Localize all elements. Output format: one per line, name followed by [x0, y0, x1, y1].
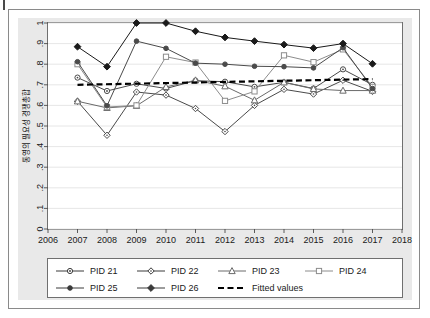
data-point-pid-24-2010	[163, 54, 168, 59]
data-point-pid-26-2012	[222, 34, 229, 41]
svg-text:.7: .7	[35, 81, 45, 89]
legend-entries: PID 21PID 22PID 23PID 24PID 25PID 26Fitt…	[56, 266, 367, 293]
data-point-pid-24-2013	[252, 89, 257, 94]
data-point-pid-25-2012	[223, 62, 228, 67]
legend-marker-diamond-filled	[148, 285, 155, 292]
data-point-pid-24-2009	[134, 103, 139, 108]
svg-text:PID 21: PID 21	[90, 266, 118, 276]
data-point-pid-22-2014	[281, 86, 287, 92]
svg-text:PID 22: PID 22	[171, 266, 199, 276]
data-series-layer	[74, 20, 376, 139]
data-point-pid-26-2009	[133, 20, 140, 27]
svg-text:2017: 2017	[362, 235, 382, 245]
svg-text:.2: .2	[35, 184, 45, 192]
svg-text:2006: 2006	[38, 235, 58, 245]
data-point-pid-26-2016	[340, 40, 347, 47]
data-point-pid-25-2008	[105, 104, 110, 109]
data-point-pid-25-2017	[370, 86, 375, 91]
data-point-pid-22-2009	[133, 89, 139, 95]
legend-marker-circle-open	[67, 268, 72, 273]
data-point-pid-24-2012	[222, 98, 227, 103]
data-point-pid-26-2010	[163, 20, 170, 27]
data-point-pid-25-2015	[311, 66, 316, 71]
svg-text:.4: .4	[35, 143, 45, 151]
data-point-pid-24-2014	[281, 53, 286, 58]
data-point-pid-21-2008	[104, 88, 109, 93]
series-pid-25	[75, 39, 375, 108]
data-point-pid-26-2014	[281, 41, 288, 48]
svg-text:0: 0	[35, 226, 45, 231]
data-point-pid-25-2014	[282, 64, 287, 69]
data-point-pid-24-2015	[311, 60, 316, 65]
line-chart: 0.1.2.3.4.5.6.7.8.91 통영의 필요성 경쟁총합 200620…	[0, 0, 430, 318]
page-root: 0.1.2.3.4.5.6.7.8.91 통영의 필요성 경쟁총합 200620…	[0, 0, 430, 318]
data-point-pid-26-2011	[192, 28, 199, 35]
svg-text:2009: 2009	[126, 235, 146, 245]
legend-item-pid-24[interactable]: PID 24	[305, 266, 367, 276]
svg-text:2014: 2014	[274, 235, 294, 245]
svg-text:통영의 필요성 경쟁총합: 통영의 필요성 경쟁총합	[21, 89, 31, 163]
legend-item-pid-23[interactable]: PID 23	[218, 266, 280, 276]
data-point-pid-25-2009	[134, 39, 139, 44]
svg-text:2010: 2010	[156, 235, 176, 245]
svg-text:PID 23: PID 23	[252, 266, 280, 276]
data-point-pid-25-2010	[164, 46, 169, 51]
legend-item-pid-21[interactable]: PID 21	[56, 266, 118, 276]
svg-text:.3: .3	[35, 163, 45, 171]
svg-text:PID 26: PID 26	[171, 283, 199, 293]
chart-svg-holder: 0.1.2.3.4.5.6.7.8.91 통영의 필요성 경쟁총합 200620…	[0, 0, 430, 318]
data-point-pid-23-2013	[251, 97, 257, 103]
data-point-pid-21-2016	[340, 67, 345, 72]
svg-text:.1: .1	[35, 205, 45, 213]
svg-text:PID 24: PID 24	[339, 266, 367, 276]
svg-text:.5: .5	[35, 122, 45, 130]
gridlines	[48, 23, 402, 229]
data-point-pid-21-2007	[75, 75, 80, 80]
data-point-pid-25-2007	[75, 59, 80, 64]
y-axis-tick-labels: 0.1.2.3.4.5.6.7.8.91	[35, 20, 45, 231]
legend-item-pid-26[interactable]: PID 26	[137, 283, 199, 293]
legend-marker-circle-filled	[68, 286, 73, 291]
svg-text:2013: 2013	[244, 235, 264, 245]
data-point-pid-25-2013	[252, 64, 257, 69]
svg-text:2007: 2007	[67, 235, 87, 245]
svg-text:2008: 2008	[97, 235, 117, 245]
svg-text:.8: .8	[35, 60, 45, 68]
svg-text:2016: 2016	[333, 235, 353, 245]
svg-text:.6: .6	[35, 102, 45, 110]
x-axis-tick-labels: 2006200720082009201020112012201320142015…	[38, 235, 412, 245]
svg-text:1: 1	[35, 20, 45, 25]
svg-text:PID 25: PID 25	[90, 283, 118, 293]
svg-text:2018: 2018	[392, 235, 412, 245]
svg-text:2011: 2011	[186, 235, 205, 245]
legend-item-pid-22[interactable]: PID 22	[137, 266, 199, 276]
svg-text:2015: 2015	[303, 235, 323, 245]
data-point-pid-26-2015	[310, 45, 317, 52]
data-point-pid-25-2011	[193, 61, 198, 66]
legend-item-fitted-values[interactable]: Fitted values	[218, 283, 304, 293]
legend-marker-diamond-open	[148, 268, 154, 274]
svg-text:Fitted values: Fitted values	[252, 283, 304, 293]
data-point-pid-26-2017	[369, 60, 376, 67]
x-axis-ticks	[48, 229, 402, 233]
y-axis-title: 통영의 필요성 경쟁총합	[21, 89, 31, 163]
legend-item-pid-25[interactable]: PID 25	[56, 283, 118, 293]
legend-marker-square-open	[316, 268, 321, 273]
svg-text:.9: .9	[35, 40, 45, 48]
data-point-pid-26-2007	[74, 43, 81, 50]
svg-text:2012: 2012	[215, 235, 235, 245]
data-point-pid-22-2010	[163, 92, 169, 98]
